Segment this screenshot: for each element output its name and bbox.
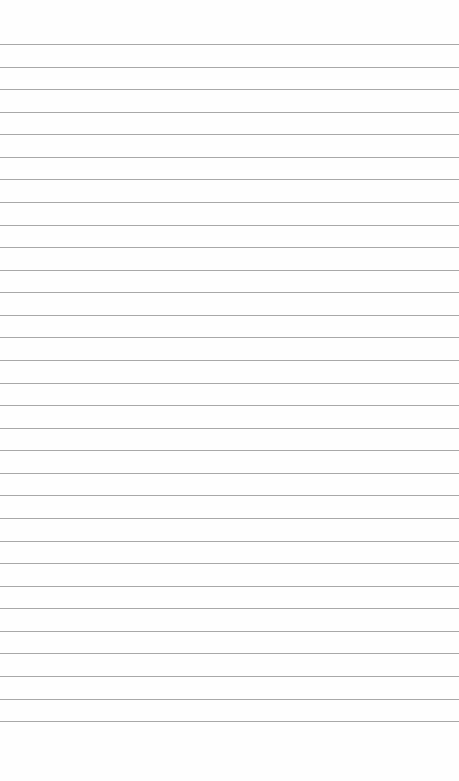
- ruled-line: [0, 134, 459, 135]
- ruled-line: [0, 676, 459, 677]
- ruled-line: [0, 428, 459, 429]
- lined-paper: [0, 0, 459, 781]
- ruled-line: [0, 586, 459, 587]
- ruled-line: [0, 450, 459, 451]
- ruled-line: [0, 67, 459, 68]
- ruled-line: [0, 653, 459, 654]
- ruled-line: [0, 518, 459, 519]
- ruled-line: [0, 112, 459, 113]
- ruled-line: [0, 699, 459, 700]
- ruled-line: [0, 631, 459, 632]
- ruled-line: [0, 292, 459, 293]
- ruled-line: [0, 563, 459, 564]
- ruled-line: [0, 473, 459, 474]
- ruled-line: [0, 315, 459, 316]
- ruled-line: [0, 608, 459, 609]
- ruled-line: [0, 247, 459, 248]
- ruled-line: [0, 89, 459, 90]
- ruled-line: [0, 337, 459, 338]
- ruled-line: [0, 360, 459, 361]
- ruled-line: [0, 495, 459, 496]
- ruled-line: [0, 44, 459, 45]
- ruled-line: [0, 225, 459, 226]
- ruled-line: [0, 270, 459, 271]
- ruled-line: [0, 541, 459, 542]
- ruled-line: [0, 383, 459, 384]
- ruled-line: [0, 721, 459, 722]
- ruled-line: [0, 405, 459, 406]
- ruled-line: [0, 202, 459, 203]
- ruled-line: [0, 179, 459, 180]
- ruled-line: [0, 157, 459, 158]
